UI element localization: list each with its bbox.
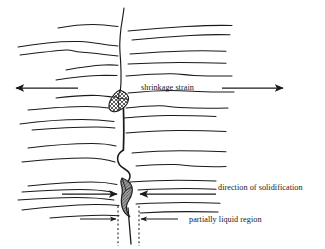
diagram-canvas: shrinkage strain direction of solidifica… <box>0 0 325 249</box>
grain-boundaries-left <box>18 25 119 218</box>
upper-liquid-pocket <box>109 90 129 112</box>
label-shrinkage-strain: shrinkage strain <box>141 83 194 92</box>
solidification-crack-diagram: shrinkage strain direction of solidifica… <box>0 0 325 249</box>
lower-liquid-film <box>121 178 133 217</box>
label-direction-of-solidification: direction of solidification <box>218 183 303 192</box>
label-partially-liquid-region: partially liquid region <box>189 215 262 224</box>
